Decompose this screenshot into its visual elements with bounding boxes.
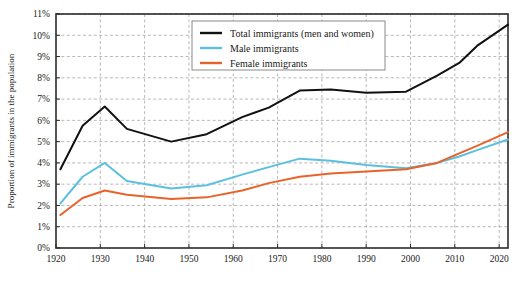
y-tick-label: 5% — [37, 137, 50, 147]
y-axis-label: Proportion of immigrants in the populati… — [6, 53, 16, 208]
y-tick-label: 1% — [37, 222, 50, 232]
x-tick-label: 1990 — [357, 254, 376, 264]
series-line-male — [60, 140, 508, 204]
x-tick-label: 1970 — [268, 254, 287, 264]
y-tick-label: 4% — [37, 158, 50, 168]
legend-label-1: Male immigrants — [230, 43, 299, 54]
y-tick-label: 7% — [37, 94, 50, 104]
y-tick-label: 0% — [37, 243, 50, 253]
x-tick-label: 2010 — [445, 254, 464, 264]
legend-label-2: Female immigrants — [230, 58, 308, 69]
x-tick-label: 2020 — [490, 254, 509, 264]
immigration-line-chart: 0%1%2%3%4%5%6%7%8%9%10%11%19201930194019… — [0, 0, 523, 281]
x-tick-label: 1930 — [91, 254, 110, 264]
x-tick-label: 1920 — [47, 254, 66, 264]
x-tick-label: 1980 — [312, 254, 331, 264]
y-tick-label: 11% — [33, 9, 50, 19]
legend-label-0: Total immigrants (men and women) — [230, 28, 374, 40]
y-tick-label: 10% — [33, 31, 51, 41]
chart-canvas: 0%1%2%3%4%5%6%7%8%9%10%11%19201930194019… — [0, 0, 523, 281]
y-tick-label: 2% — [37, 201, 50, 211]
x-tick-label: 1960 — [224, 254, 243, 264]
series-line-female — [60, 132, 508, 215]
x-tick-label: 1950 — [179, 254, 198, 264]
x-tick-label: 1940 — [135, 254, 154, 264]
x-tick-label: 2000 — [401, 254, 420, 264]
y-tick-label: 8% — [37, 73, 50, 83]
y-tick-label: 9% — [37, 52, 50, 62]
y-tick-label: 6% — [37, 116, 50, 126]
y-tick-label: 3% — [37, 179, 50, 189]
